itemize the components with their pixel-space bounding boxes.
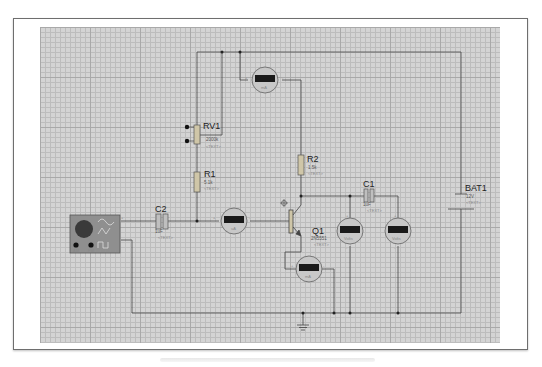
bat1-text: <TEXT> <box>466 201 481 205</box>
bat1-value: 12V <box>466 195 474 200</box>
c2-value: 1uF <box>155 230 163 235</box>
meter-top-unit: mA <box>261 86 267 90</box>
meter-emitter-unit: mA <box>305 275 311 279</box>
c1-text: <TEXT> <box>367 209 382 213</box>
c2-text: <TEXT> <box>158 236 173 240</box>
q1-value: 2N5551 <box>311 237 327 242</box>
r1-value: 5.1k <box>204 181 213 186</box>
q1-ref: Q1 <box>312 227 324 236</box>
q1-text: <TEXT> <box>314 243 329 247</box>
transistor-q1 <box>289 205 301 236</box>
bat1-ref: BAT1 <box>465 184 487 193</box>
meter-volts2-plus: + <box>394 214 396 218</box>
meter-base-unit: uA <box>231 227 236 231</box>
siggen-fm-label: FM <box>88 249 94 253</box>
meter-emitter-plus: + <box>291 264 293 268</box>
meter-emitter-minus: - <box>323 264 324 268</box>
meter-volts1-minus: - <box>346 246 347 250</box>
resistor-r2 <box>298 155 304 175</box>
r1-ref: R1 <box>204 170 216 179</box>
meter-volts1-unit: Volts <box>344 237 353 241</box>
probe-marker <box>280 199 288 207</box>
siggen-minus: - <box>121 238 122 242</box>
circuit-wiring <box>0 0 542 367</box>
meter-volts2-unit: Volts <box>392 237 401 241</box>
meter-top-minus: - <box>282 76 283 80</box>
meter-top-plus: + <box>245 76 247 80</box>
r2-value: 1.5k <box>308 166 317 171</box>
meter-volts1-plus: + <box>346 214 348 218</box>
ground-icon <box>297 325 309 330</box>
meter-base-minus: - <box>249 216 250 220</box>
siggen-plus: + <box>121 216 123 220</box>
rv1-text: <TEXT> <box>206 145 221 149</box>
c2-ref: C2 <box>155 205 167 214</box>
potentiometer-rv1 <box>185 125 200 144</box>
siggen-am-label: AM <box>73 249 79 253</box>
r1-text: <TEXT> <box>204 187 219 191</box>
r2-text: <TEXT> <box>308 172 323 176</box>
meter-base-plus: + <box>213 216 215 220</box>
meter-volts2-minus: - <box>394 246 395 250</box>
capacitor-c1 <box>364 189 374 202</box>
rv1-ref: RV1 <box>203 122 220 131</box>
capacitor-c2 <box>156 214 168 229</box>
c1-value: 1uF <box>363 203 371 208</box>
rv1-value: 2000k <box>206 138 218 143</box>
c1-ref: C1 <box>363 180 375 189</box>
resistor-r1 <box>194 172 200 192</box>
r2-ref: R2 <box>307 155 319 164</box>
